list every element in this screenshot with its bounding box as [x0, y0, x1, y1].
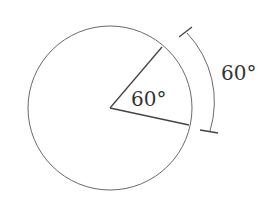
circle-diagram: 60° 60° — [0, 0, 270, 202]
arc-tick-bottom — [200, 130, 218, 133]
central-angle-label: 60° — [131, 87, 166, 111]
arc-tick-top — [179, 27, 192, 37]
arc-measure-label: 60° — [221, 61, 256, 85]
